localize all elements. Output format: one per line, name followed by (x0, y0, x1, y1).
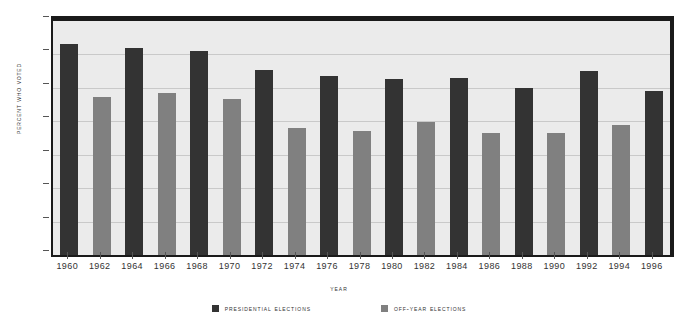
legend-item: Off-Year Elections (381, 305, 466, 312)
x-axis-tick-mark (327, 252, 328, 259)
bar-1980 (385, 79, 403, 255)
bar-1992 (580, 71, 598, 255)
y-axis-title: Percent Who Voted (15, 29, 22, 169)
bar-1964 (125, 48, 143, 255)
legend-label: Presidential Elections (225, 305, 311, 312)
y-axis-tick-mark (43, 116, 49, 117)
gridline (53, 54, 670, 55)
y-axis-tick-mark (43, 83, 49, 84)
x-axis-tick-mark (587, 252, 588, 259)
x-axis-tick-mark (295, 252, 296, 259)
bar-1986 (482, 133, 500, 255)
x-axis-tick-mark (165, 252, 166, 259)
gridline (53, 121, 670, 122)
x-axis-title: Year (0, 285, 678, 292)
x-axis-tick-mark (652, 252, 653, 259)
x-axis-tick-mark (424, 252, 425, 259)
x-axis-tick-mark (197, 252, 198, 259)
bar-1988 (515, 88, 533, 255)
bar-1972 (255, 70, 273, 255)
bar-1976 (320, 76, 338, 255)
y-axis-tick-mark (43, 150, 49, 151)
y-axis-tick-mark (43, 217, 49, 218)
bar-1994 (612, 125, 630, 255)
bar-1974 (288, 128, 306, 255)
x-axis-tick-mark (67, 252, 68, 259)
chart-container: Percent Who Voted 706050403020100 196019… (0, 0, 678, 322)
x-axis-tick-mark (619, 252, 620, 259)
legend-swatch-icon (381, 305, 388, 312)
x-axis-tick-mark (457, 252, 458, 259)
gridline (53, 88, 670, 89)
x-axis-tick-mark (100, 252, 101, 259)
x-axis-tick-label: 1996 (630, 261, 674, 271)
y-axis-tick-mark (43, 183, 49, 184)
chart-legend: Presidential ElectionsOff-Year Elections (0, 305, 678, 312)
legend-label: Off-Year Elections (394, 305, 466, 312)
bar-1970 (223, 99, 241, 255)
plot-frame (51, 16, 674, 257)
bar-1984 (450, 78, 468, 256)
y-axis-tick-mark (43, 16, 49, 17)
bar-1996 (645, 91, 663, 255)
x-axis-tick-mark (360, 252, 361, 259)
legend-item: Presidential Elections (212, 305, 311, 312)
bar-1962 (93, 97, 111, 255)
x-axis-tick-mark (262, 252, 263, 259)
legend-swatch-icon (212, 305, 219, 312)
bar-1968 (190, 51, 208, 255)
x-axis-tick-mark (392, 252, 393, 259)
bar-1982 (417, 122, 435, 255)
x-axis-tick-mark (230, 252, 231, 259)
x-axis-tick-mark (132, 252, 133, 259)
x-axis-tick-mark (489, 252, 490, 259)
bar-1978 (353, 131, 371, 255)
x-axis-tick-mark (554, 252, 555, 259)
bar-1990 (547, 133, 565, 255)
x-axis-tick-mark (522, 252, 523, 259)
y-axis-tick-mark (43, 250, 49, 251)
bar-1966 (158, 93, 176, 255)
bar-1960 (60, 44, 78, 255)
plot-area (53, 21, 670, 255)
y-axis-tick-mark (43, 49, 49, 50)
